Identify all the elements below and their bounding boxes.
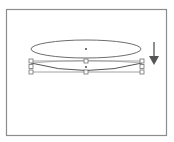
handle-bottom-center[interactable] xyxy=(84,70,88,74)
handle-top-center[interactable] xyxy=(84,59,88,63)
handle-top-left[interactable] xyxy=(29,59,33,63)
handle-bottom-left[interactable] xyxy=(29,70,33,74)
diagram-canvas xyxy=(0,0,174,142)
ellipse-center-mark xyxy=(85,48,87,50)
handle-middle-left[interactable] xyxy=(29,65,33,69)
shape-center-mark xyxy=(85,66,87,68)
handle-middle-right[interactable] xyxy=(140,65,144,69)
transformed-shape[interactable] xyxy=(29,59,144,74)
handle-top-right[interactable] xyxy=(140,59,144,63)
handle-bottom-right[interactable] xyxy=(140,70,144,74)
